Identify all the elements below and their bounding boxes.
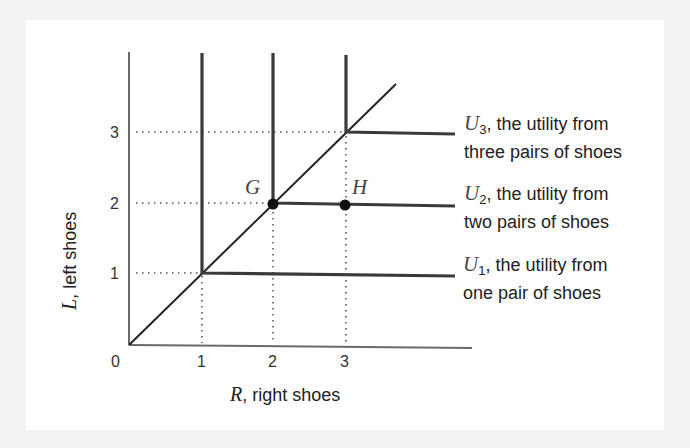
- u3-line2: three pairs of shoes: [464, 141, 622, 163]
- x-tick-3: 3: [340, 353, 349, 370]
- y-axis-title: L, left shoes: [58, 212, 81, 310]
- x-tick-1: 1: [197, 353, 206, 370]
- point-h-label: H: [351, 175, 369, 199]
- u1-line1: , the utility from: [485, 255, 607, 275]
- x-axis: [129, 345, 472, 348]
- y-tick-3: 3: [110, 124, 119, 141]
- x-axis-text: , right shoes: [242, 385, 340, 405]
- label-u1: U1, the utility from one pair of shoes: [463, 253, 607, 304]
- x-axis-title: R, right shoes: [230, 383, 340, 406]
- u1-var: U: [463, 252, 478, 276]
- x-tick-2: 2: [268, 353, 277, 370]
- y-axis-var: L: [58, 299, 80, 310]
- label-u2: U2, the utility from two pairs of shoes: [464, 182, 609, 233]
- y-axis-text: , left shoes: [60, 212, 80, 299]
- y-tick-1: 1: [110, 265, 119, 282]
- curve-u1: [202, 53, 455, 276]
- ray-line: [129, 84, 396, 345]
- point-g: [268, 199, 279, 210]
- point-g-label: G: [245, 175, 260, 199]
- u3-var: U: [464, 111, 479, 135]
- u2-line2: two pairs of shoes: [464, 211, 609, 233]
- u2-var: U: [464, 181, 479, 205]
- u3-line1: , the utility from: [486, 114, 608, 134]
- y-tick-2: 2: [110, 195, 119, 212]
- label-u3: U3, the utility from three pairs of shoe…: [464, 112, 622, 163]
- point-h: [340, 200, 351, 211]
- curve-u3: [346, 55, 455, 134]
- u1-line2: one pair of shoes: [463, 282, 607, 304]
- u2-line1: , the utility from: [486, 184, 608, 204]
- indifference-curves: [202, 53, 455, 276]
- origin-label: 0: [111, 353, 120, 370]
- x-axis-var: R: [230, 383, 242, 405]
- axes: [129, 52, 472, 348]
